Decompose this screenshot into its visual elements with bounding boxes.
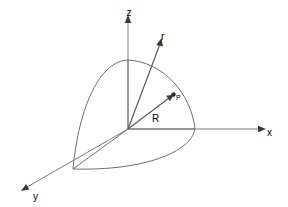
point-P-label: P [176,94,181,102]
z-axis-label-wrap: z [122,2,136,20]
point-P-label-wrap: P [176,86,186,104]
radius-edge-y [73,129,128,169]
y-axis-arrowhead [21,184,29,191]
vector-R-label: R [152,113,159,124]
x-axis-label: x [267,127,272,138]
z-axis-label: z [127,7,132,18]
y-axis-label-wrap: y [33,186,47,204]
vector-R-label-wrap: R [152,108,166,126]
diagram-canvas: z x y r R P [0,0,288,207]
x-axis-label-wrap: x [267,122,281,140]
x-axis-arrowhead [258,126,266,133]
coordinate-system-diagram [0,0,288,207]
arc-yz-plane [73,60,128,169]
arc-xy-plane [73,129,195,169]
y-axis-label: y [33,191,38,202]
axes-group [21,15,266,191]
vector-r-label-wrap: r [161,26,173,44]
vector-r-label: r [161,31,164,42]
